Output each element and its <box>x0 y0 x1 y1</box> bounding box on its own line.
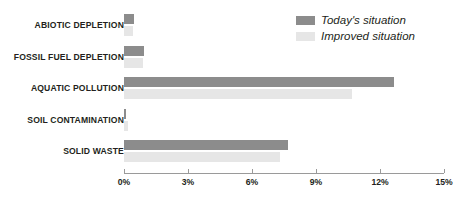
plot-area: ABIOTIC DEPLETIONFOSSIL FUEL DEPLETIONAQ… <box>0 0 456 201</box>
category-label: FOSSIL FUEL DEPLETION <box>14 52 124 62</box>
x-axis-tick <box>380 169 381 173</box>
bar-improved <box>124 58 143 68</box>
bar-improved <box>124 26 133 36</box>
x-axis-tick-label: 6% <box>246 177 258 187</box>
bar-todays <box>124 140 288 150</box>
x-axis-tick <box>444 169 445 173</box>
category-label: SOIL CONTAMINATION <box>27 115 124 125</box>
bar-todays <box>124 77 394 87</box>
x-axis-tick <box>124 169 125 173</box>
x-axis-line <box>124 173 444 174</box>
bar-todays <box>124 109 126 119</box>
x-axis-tick-label: 12% <box>371 177 388 187</box>
category-label: SOLID WASTE <box>63 146 124 156</box>
x-axis-tick <box>188 169 189 173</box>
bar-todays <box>124 46 144 56</box>
x-axis-tick <box>316 169 317 173</box>
x-axis-tick-label: 9% <box>310 177 322 187</box>
category-label: ABIOTIC DEPLETION <box>35 20 124 30</box>
bar-todays <box>124 14 134 24</box>
x-axis-tick-label: 15% <box>435 177 452 187</box>
x-axis-tick-label: 0% <box>118 177 130 187</box>
category-label: AQUATIC POLLUTION <box>31 83 124 93</box>
bar-improved <box>124 89 352 99</box>
bar-chart: Today's situation Improved situation ABI… <box>0 0 456 201</box>
bar-improved <box>124 121 128 131</box>
bar-improved <box>124 152 280 162</box>
x-axis-tick-label: 3% <box>182 177 194 187</box>
x-axis-tick <box>252 169 253 173</box>
